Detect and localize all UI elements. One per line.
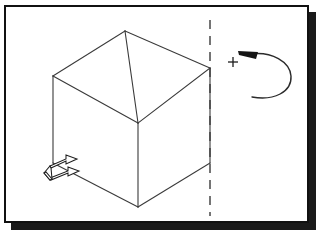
figure-root — [0, 0, 320, 233]
frame-plate — [4, 5, 309, 223]
figure-canvas — [0, 0, 320, 233]
